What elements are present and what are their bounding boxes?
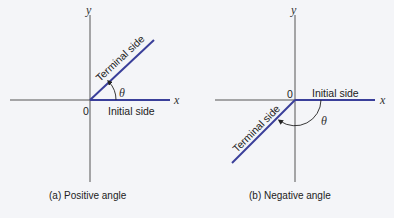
terminal-side-ray xyxy=(232,100,295,163)
theta-label: θ xyxy=(321,114,327,128)
theta-label: θ xyxy=(119,86,125,100)
origin-label: 0 xyxy=(83,105,89,117)
terminal-side-label: Terminal side xyxy=(93,32,147,83)
caption: (a) Positive angle xyxy=(49,190,127,201)
angle-diagrams: y x 0 θ Initial side Terminal side (a) P… xyxy=(0,0,394,218)
x-axis-label: x xyxy=(173,93,180,107)
angle-arc xyxy=(280,100,321,126)
diagram-negative-angle: y x 0 θ Initial side Terminal side (b) N… xyxy=(215,3,386,201)
angle-arc xyxy=(109,82,116,100)
x-axis-label: x xyxy=(379,93,386,107)
y-axis-label: y xyxy=(85,3,92,17)
terminal-side-label: Terminal side xyxy=(230,102,282,154)
origin-label: 0 xyxy=(287,88,293,100)
initial-side-label: Initial side xyxy=(312,87,359,99)
initial-side-label: Initial side xyxy=(108,105,155,117)
caption: (b) Negative angle xyxy=(249,190,331,201)
y-axis-label: y xyxy=(290,3,297,17)
diagram-positive-angle: y x 0 θ Initial side Terminal side (a) P… xyxy=(10,3,180,201)
